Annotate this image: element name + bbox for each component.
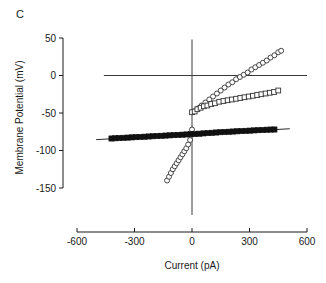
x-tick-label: 300 bbox=[241, 236, 258, 247]
tick-labels-layer: 500-50-100-150-600-3000300600 bbox=[36, 33, 316, 248]
y-tick-label: 50 bbox=[45, 33, 57, 44]
data-series-layer bbox=[109, 48, 284, 183]
data-point bbox=[272, 127, 277, 132]
x-tick-label: -600 bbox=[67, 236, 87, 247]
series-open-circles bbox=[165, 48, 284, 183]
data-point bbox=[276, 88, 281, 93]
scatter-plot: 500-50-100-150-600-3000300600 bbox=[0, 0, 326, 283]
y-tick-label: -150 bbox=[36, 183, 56, 194]
data-point bbox=[188, 138, 193, 143]
y-tick-label: -50 bbox=[42, 108, 57, 119]
x-tick-label: -300 bbox=[124, 236, 144, 247]
y-tick-label: -100 bbox=[36, 145, 56, 156]
figure-panel: C Membrane Potential (mV) Current (pA) 5… bbox=[0, 0, 326, 283]
y-tick-label: 0 bbox=[50, 70, 56, 81]
data-point bbox=[279, 48, 284, 53]
x-tick-label: 600 bbox=[299, 236, 316, 247]
x-tick-label: 0 bbox=[189, 236, 195, 247]
